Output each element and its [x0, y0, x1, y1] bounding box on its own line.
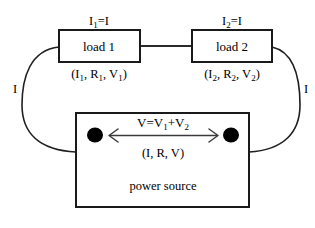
- load-2-current-rest: =I: [231, 14, 242, 28]
- voltage-plus: +V: [168, 115, 185, 130]
- load-1-triple-close: ): [123, 67, 127, 81]
- left-current-label: I: [13, 82, 17, 96]
- load-2-triple-close: ): [256, 67, 260, 81]
- power-source-parameters: (I, R, V): [142, 146, 184, 160]
- load-1-current-label: I1=I: [89, 14, 109, 30]
- circuit-diagram-svg: I1=I I2=I load 1 load 2 (I1, R1, V1) (I2…: [0, 0, 315, 228]
- load-1-label: load 1: [83, 39, 115, 54]
- load-2-current-label: I2=I: [222, 14, 242, 30]
- voltage-open: V=V: [137, 115, 164, 130]
- circuit-diagram-canvas: I1=I I2=I load 1 load 2 (I1, R1, V1) (I2…: [0, 0, 315, 228]
- load-2-triple-open: (I: [204, 67, 212, 81]
- load-1-triple-open: (I: [71, 67, 79, 81]
- voltage-sub2: 2: [184, 122, 189, 132]
- terminal-left-dot: [87, 128, 103, 143]
- load-2-label: load 2: [216, 39, 248, 54]
- terminal-right-dot: [223, 128, 239, 143]
- load-1-triple-mid2: , V: [103, 67, 118, 81]
- voltage-sum-label: V=V1+V2: [137, 115, 189, 132]
- load-2-triple-mid2: , V: [236, 67, 251, 81]
- load-1-parameters: (I1, R1, V1): [71, 67, 127, 83]
- right-current-label: I: [304, 82, 308, 96]
- power-source-label: power source: [130, 179, 197, 193]
- load-2-triple-mid1: , R: [217, 67, 232, 81]
- load-1-current-rest: =I: [98, 14, 109, 28]
- load-2-parameters: (I2, R2, V2): [204, 67, 260, 83]
- load-1-triple-mid1: , R: [84, 67, 99, 81]
